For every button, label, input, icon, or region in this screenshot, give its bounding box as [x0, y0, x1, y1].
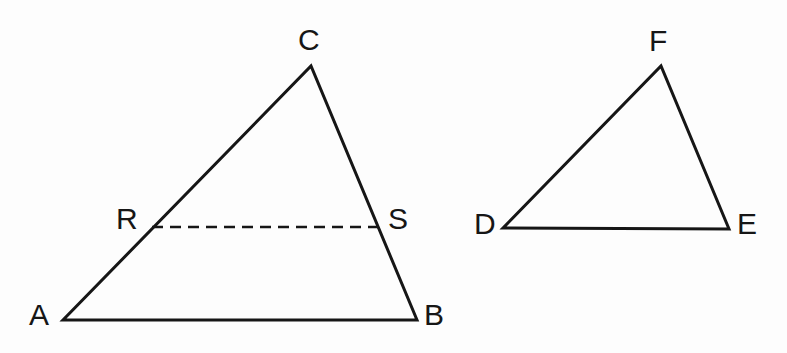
- geometry-canvas: [0, 0, 787, 353]
- label-point-s: S: [388, 204, 408, 234]
- label-vertex-e: E: [737, 209, 757, 239]
- label-vertex-a: A: [29, 300, 49, 330]
- label-vertex-b: B: [424, 300, 444, 330]
- label-vertex-d: D: [474, 209, 496, 239]
- geometry-figure: A B C R S D E F: [0, 0, 787, 353]
- label-vertex-c: C: [298, 25, 320, 55]
- label-vertex-f: F: [649, 26, 667, 56]
- figure-background: [0, 0, 787, 353]
- label-point-r: R: [116, 204, 138, 234]
